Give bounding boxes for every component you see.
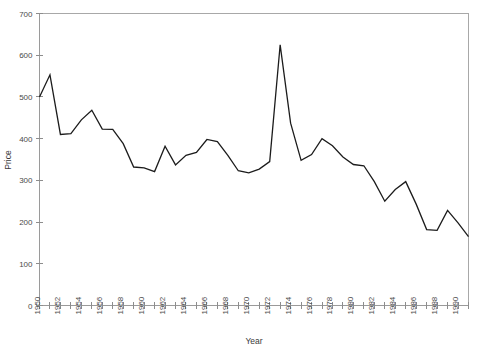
x-tick-label-1970: 1970	[242, 296, 251, 314]
x-tick-label-1980: 1980	[346, 296, 355, 314]
x-tick-label-1950: 1950	[33, 296, 42, 314]
y-tick-label-300: 300	[19, 176, 33, 185]
x-axis-title: Year	[245, 336, 262, 346]
x-tick-label-1972: 1972	[263, 296, 272, 314]
x-tick-label-1986: 1986	[409, 296, 418, 314]
y-tick-label-700: 700	[19, 10, 33, 19]
x-tick-label-1978: 1978	[325, 296, 334, 314]
y-axis-tick-labels: 0100200300400500600700	[19, 10, 33, 311]
price-series-line	[40, 45, 469, 237]
x-tick-label-1974: 1974	[284, 296, 293, 314]
y-tick-label-200: 200	[19, 218, 33, 227]
y-tick-label-600: 600	[19, 51, 33, 60]
x-tick-label-1960: 1960	[137, 296, 146, 314]
x-tick-label-1956: 1956	[95, 296, 104, 314]
x-axis-tick-labels: 1950195219541956195819601962196419661968…	[33, 296, 461, 314]
chart-canvas: 0100200300400500600700 19501952195419561…	[0, 0, 487, 354]
x-tick-label-1966: 1966	[200, 296, 209, 314]
price-year-line-chart: 0100200300400500600700 19501952195419561…	[0, 0, 487, 354]
x-tick-label-1988: 1988	[430, 296, 439, 314]
y-tick-label-500: 500	[19, 93, 33, 102]
y-tick-label-100: 100	[19, 260, 33, 269]
x-tick-label-1990: 1990	[451, 296, 460, 314]
x-tick-label-1952: 1952	[53, 296, 62, 314]
x-tick-label-1954: 1954	[74, 296, 83, 314]
plot-frame	[40, 14, 469, 306]
x-tick-label-1968: 1968	[221, 296, 230, 314]
y-tick-label-400: 400	[19, 135, 33, 144]
x-tick-label-1958: 1958	[116, 296, 125, 314]
y-axis-title: Price	[3, 150, 13, 170]
x-tick-label-1984: 1984	[388, 296, 397, 314]
x-tick-label-1976: 1976	[305, 296, 314, 314]
x-tick-label-1962: 1962	[158, 296, 167, 314]
x-tick-label-1964: 1964	[179, 296, 188, 314]
x-tick-label-1982: 1982	[367, 296, 376, 314]
